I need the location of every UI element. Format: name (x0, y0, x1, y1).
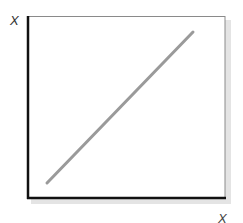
x-axis-label: X (218, 212, 227, 223)
chart: X X (0, 0, 243, 223)
y-axis-label: X (10, 14, 19, 27)
plot-background (27, 16, 225, 198)
plot-area (0, 0, 243, 223)
